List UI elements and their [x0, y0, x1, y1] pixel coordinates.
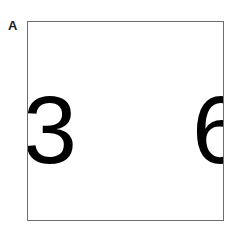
stimulus-box: 3 6: [27, 21, 224, 221]
figure-panel: A 3 6: [0, 0, 239, 235]
stimulus-digit-left: 3: [28, 81, 77, 178]
digit-layer: 3 6: [28, 22, 223, 220]
stimulus-digit-right: 6: [192, 81, 223, 178]
panel-label: A: [8, 19, 17, 32]
